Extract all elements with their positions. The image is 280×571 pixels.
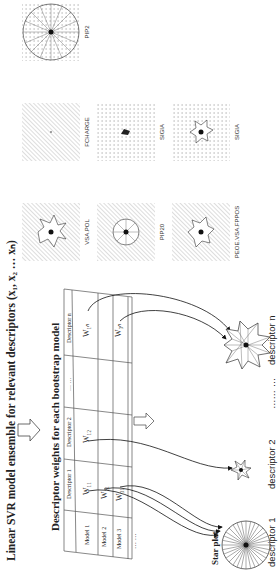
example-panel-peoe-vsa-fppos bbox=[172, 203, 230, 261]
row-label-model-1: Model 1 bbox=[84, 525, 90, 545]
example-label-vsa-pol: VSA.POL bbox=[84, 219, 90, 245]
weight-arrows bbox=[88, 294, 232, 536]
down-arrow-icon bbox=[18, 419, 40, 441]
cell-w31: W₃₁ bbox=[115, 488, 124, 501]
cell-w11: W₁₁ bbox=[82, 482, 91, 495]
example-panel-pip2 bbox=[22, 3, 80, 61]
cell-w21: W₂₁ bbox=[100, 486, 109, 499]
col-header-descriptor-2: Descriptor 2 bbox=[66, 417, 72, 447]
descriptor-2-label: descriptor 2 bbox=[266, 439, 277, 489]
diagram-graphics bbox=[0, 0, 280, 571]
descriptor-ellipsis-label: …… … bbox=[266, 378, 277, 409]
example-label-peoe-vsa-fppos: PEOE.VSA.FPPOS bbox=[234, 206, 240, 258]
descriptor-n-label: descriptor n bbox=[266, 315, 277, 365]
star-plot-label: Star plot bbox=[210, 531, 220, 565]
example-panel-sigia-2 bbox=[172, 103, 230, 161]
cell-w1n: W₁ₙ bbox=[82, 324, 91, 337]
row-label-ellipsis: … … bbox=[130, 533, 138, 549]
star-plot-descriptor-n bbox=[224, 321, 270, 369]
down-arrow-icon-2 bbox=[134, 413, 154, 429]
col-header-descriptor-n: Descriptor n bbox=[66, 313, 72, 343]
star-plot-descriptor-1 bbox=[222, 521, 270, 569]
descriptor-1-label: descriptor 1 bbox=[266, 517, 277, 567]
figure-canvas: Linear SVR model ensemble for relevant d… bbox=[0, 0, 280, 571]
star-plot-descriptor-2 bbox=[231, 460, 251, 480]
figure-subtitle: Descriptor weights for each bootstrap mo… bbox=[49, 323, 61, 531]
figure-title: Linear SVR model ensemble for relevant d… bbox=[4, 240, 18, 561]
row-label-model-2: Model 2 bbox=[101, 527, 107, 547]
example-panel-sigia-1 bbox=[97, 103, 155, 161]
example-panel-vsa-pol bbox=[22, 203, 80, 261]
example-panel-pip20 bbox=[97, 203, 155, 261]
example-label-pip20: PIP20 bbox=[159, 224, 165, 240]
cell-w3n: W₃ₙ bbox=[114, 324, 123, 337]
cell-w12: W₁₂ bbox=[82, 430, 91, 443]
row-label-model-3: Model 3 bbox=[116, 529, 122, 549]
example-panel-fcharge bbox=[22, 103, 80, 161]
example-label-sigia-2: SIGIA bbox=[234, 124, 240, 140]
example-label-fcharge: FCHARGE bbox=[84, 117, 90, 146]
col-header-descriptor-1: Descriptor 1 bbox=[66, 469, 72, 499]
example-label-pip2: PIP2 bbox=[84, 25, 90, 38]
example-label-sigia-1: SIGIA bbox=[159, 124, 165, 140]
col-header-ellipsis: … … bbox=[66, 378, 72, 392]
